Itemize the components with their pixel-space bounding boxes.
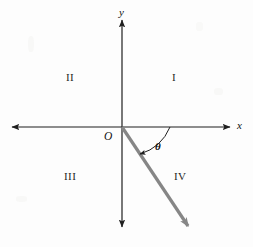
theta-label: θ — [155, 141, 161, 152]
x-axis-label: x — [237, 120, 242, 131]
coordinate-plane-figure: y x O I II III IV θ — [0, 0, 253, 247]
quadrant-label-ii: II — [66, 72, 74, 83]
quadrant-label-iii: III — [64, 171, 76, 182]
y-axis-label: y — [119, 7, 124, 18]
diagram-canvas — [0, 0, 253, 247]
quadrant-label-iv: IV — [174, 171, 186, 182]
quadrant-label-i: I — [172, 72, 176, 83]
origin-label: O — [104, 131, 112, 143]
